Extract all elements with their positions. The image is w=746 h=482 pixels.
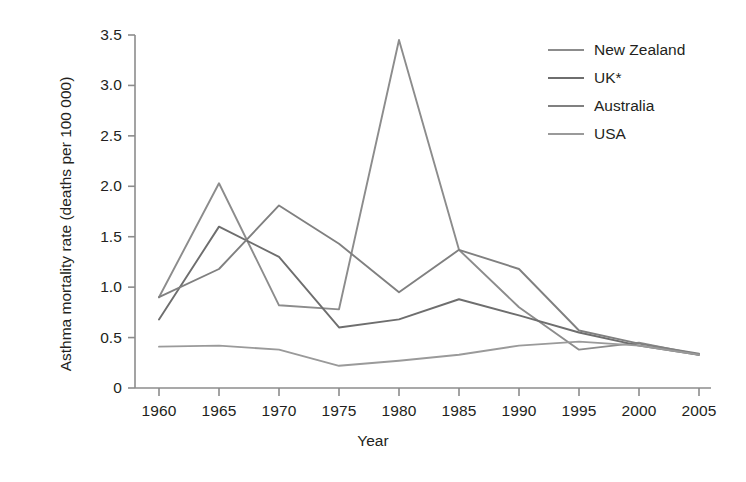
- x-tick-label: 1995: [562, 402, 597, 420]
- legend-item[interactable]: Australia: [548, 92, 685, 120]
- x-tick-label: 1975: [322, 402, 357, 420]
- x-tick-label: 1990: [502, 402, 537, 420]
- legend-line-swatch: [548, 49, 584, 51]
- x-axis-title: Year: [0, 432, 746, 450]
- legend-item[interactable]: UK*: [548, 64, 685, 92]
- x-tick-label: 1985: [442, 402, 477, 420]
- x-tick-label: 1980: [382, 402, 417, 420]
- legend-item-label: USA: [594, 125, 626, 143]
- y-tick-label: 3.5: [60, 26, 122, 44]
- legend-line-swatch: [548, 105, 584, 107]
- legend-item-label: UK*: [594, 69, 622, 87]
- legend-item-label: Australia: [594, 97, 654, 115]
- x-tick-label: 2000: [622, 402, 657, 420]
- legend-line-swatch: [548, 133, 584, 135]
- asthma-mortality-line-chart: 3.53.02.52.01.51.00.50 19601965197019751…: [0, 0, 746, 482]
- x-tick-label: 1960: [142, 402, 177, 420]
- x-tick-label: 2005: [682, 402, 717, 420]
- legend-item[interactable]: New Zealand: [548, 36, 685, 64]
- legend-item-label: New Zealand: [594, 41, 685, 59]
- y-axis-title: Asthma mortality rate (deaths per 100 00…: [57, 54, 75, 394]
- legend-line-swatch: [548, 77, 584, 79]
- x-tick-label: 1970: [262, 402, 297, 420]
- chart-legend: New ZealandUK*AustraliaUSA: [548, 36, 685, 148]
- legend-item[interactable]: USA: [548, 120, 685, 148]
- x-tick-label: 1965: [202, 402, 237, 420]
